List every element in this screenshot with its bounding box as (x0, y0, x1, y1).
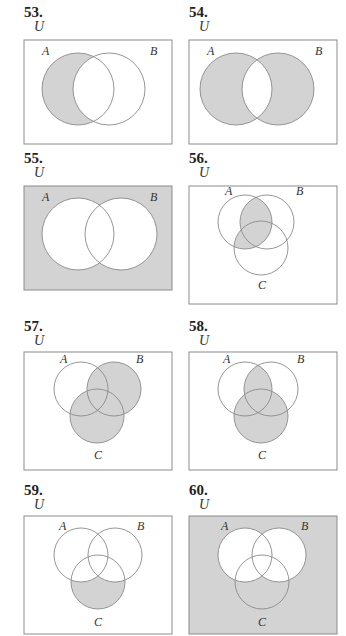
set-a-label: A (220, 519, 229, 533)
set-b-label: B (296, 184, 304, 198)
set-a-label: A (59, 352, 68, 366)
universe-label: U (34, 19, 45, 34)
set-b-label: B (150, 190, 158, 204)
set-c-label: C (94, 448, 103, 462)
set-b-label: B (137, 519, 145, 533)
set-c-label: C (94, 615, 103, 629)
exercise-53: 53. U A B (24, 4, 184, 159)
set-a-label: A (224, 184, 233, 198)
set-c-label: C (258, 278, 267, 292)
universe-label: U (199, 19, 210, 34)
universe-label: U (199, 165, 210, 180)
exercise-60: 60. U A B C (189, 482, 346, 636)
venn-diagram-c-only: U A B C (24, 496, 184, 636)
venn-diagram-complement-a-union-b: U A B C (189, 496, 346, 636)
set-c-label: C (258, 615, 267, 629)
set-c-label: C (258, 448, 267, 462)
set-a-label: A (41, 190, 50, 204)
set-b-label: B (315, 44, 323, 58)
venn-diagram-symmetric-difference: U A B (189, 18, 346, 158)
set-b-label: B (297, 352, 305, 366)
universe-label: U (34, 497, 45, 512)
universe-label: U (199, 333, 210, 348)
venn-diagram-b-union-c: U A B C (24, 332, 184, 472)
set-a-label: A (206, 44, 215, 58)
set-b-label: B (136, 352, 144, 366)
exercise-57: 57. U A B C (24, 318, 184, 473)
exercise-56: 56. U A B C (189, 150, 346, 305)
exercise-55: 55. U A B (24, 150, 184, 305)
set-a-label: A (222, 352, 231, 366)
set-b-label: B (301, 519, 309, 533)
venn-diagram-a-and-b-union-c: U A B C (189, 332, 346, 472)
universe-label: U (34, 333, 45, 348)
universe-label: U (199, 497, 210, 512)
venn-diagram-complement-a-union-b: U A B (24, 164, 184, 304)
set-a-label: A (41, 44, 50, 58)
venn-diagram-a-minus-b: U A B (24, 18, 184, 158)
exercise-58: 58. U A B C (189, 318, 346, 473)
exercise-54: 54. U A B (189, 4, 346, 159)
exercise-59: 59. U A B C (24, 482, 184, 636)
universe-label: U (34, 165, 45, 180)
set-b-label: B (150, 44, 158, 58)
venn-diagram-a-and-b-or-a-and-c: U A B C (189, 164, 346, 304)
set-a-label: A (58, 519, 67, 533)
